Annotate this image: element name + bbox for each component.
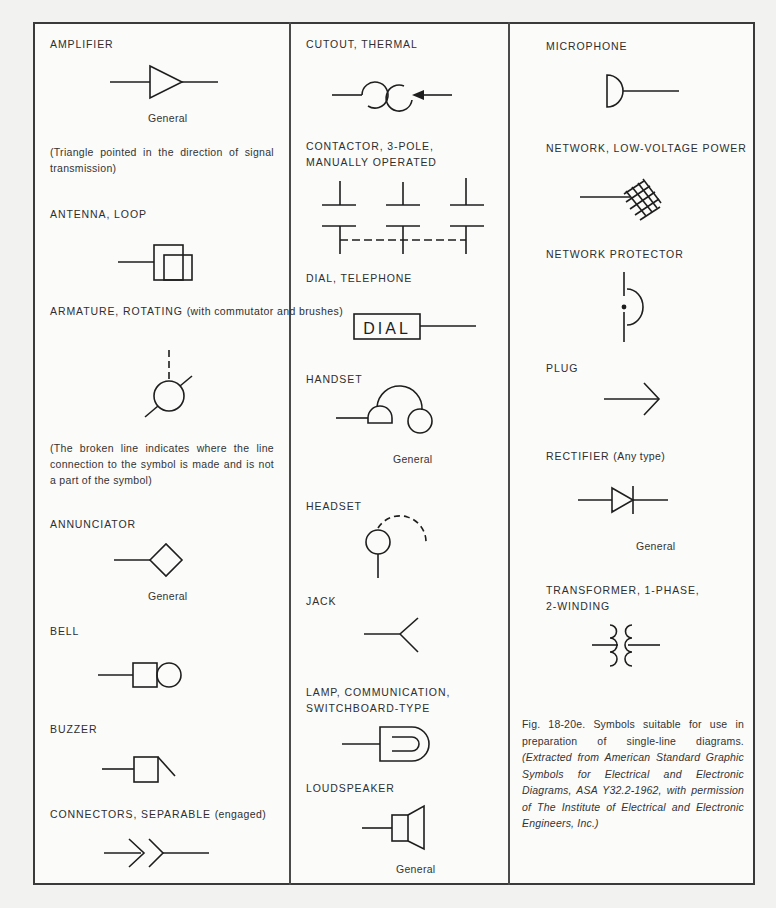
microphone-symbol-icon	[605, 74, 681, 110]
label-handset: HANDSET	[306, 373, 362, 385]
handset-symbol-icon	[336, 394, 436, 438]
label-bell: BELL	[50, 625, 79, 637]
label-antenna-loop: ANTENNA, LOOP	[50, 208, 147, 220]
lamp-communication-symbol-icon	[342, 726, 442, 766]
label-network-low-voltage-power: NETWORK, LOW-VOLTAGE POWER	[546, 142, 747, 154]
label-loudspeaker: LOUDSPEAKER	[306, 782, 395, 794]
column-divider-1	[289, 22, 291, 885]
sublabel-amplifier: General	[148, 112, 187, 124]
sublabel-annunciator: General	[148, 590, 187, 602]
label-buzzer: BUZZER	[50, 723, 97, 735]
label-contactor-3-pole: CONTACTOR, 3-POLE, MANUALLY OPERATED	[306, 138, 437, 170]
contactor-3-pole-symbol-icon	[318, 178, 488, 258]
label-connectors-separable: CONNECTORS, SEPARABLE (engaged)	[50, 808, 266, 820]
label-cutout-thermal: CUTOUT, THERMAL	[306, 38, 418, 50]
buzzer-symbol-icon	[102, 754, 182, 786]
label-plug: PLUG	[546, 362, 578, 374]
loudspeaker-symbol-icon	[362, 805, 442, 851]
transformer-1-phase-symbol-icon	[592, 624, 672, 672]
label-network-protector: NETWORK PROTECTOR	[546, 248, 684, 260]
cutout-thermal-symbol-icon	[332, 78, 456, 112]
label-dial-telephone: DIAL, TELEPHONE	[306, 272, 412, 284]
column-divider-2	[508, 22, 510, 885]
bell-symbol-icon	[98, 660, 188, 692]
label-armature-rotating: ARMATURE, ROTATING (with commutator and …	[50, 305, 343, 317]
plug-symbol-icon	[604, 382, 664, 418]
dial-telephone-symbol-icon: DIAL	[354, 312, 480, 342]
label-jack: JACK	[306, 595, 336, 607]
rectifier-symbol-icon	[578, 486, 672, 516]
jack-symbol-icon	[364, 618, 424, 658]
connectors-separable-symbol-icon	[104, 836, 214, 870]
label-lamp-communication: LAMP, COMMUNICATION, SWITCHBOARD-TYPE	[306, 684, 450, 716]
label-amplifier: AMPLIFIER	[50, 38, 114, 50]
annunciator-symbol-icon	[114, 542, 194, 582]
armature-rotating-symbol-icon	[140, 348, 200, 428]
sublabel-rectifier: General	[636, 540, 675, 552]
label-transformer: TRANSFORMER, 1-PHASE, 2-WINDING	[546, 582, 700, 614]
note-armature-rotating: (The broken line indicates where the lin…	[50, 440, 274, 488]
sublabel-handset: General	[393, 453, 432, 465]
headset-symbol-icon	[364, 512, 436, 584]
sublabel-loudspeaker: General	[396, 863, 435, 875]
amplifier-symbol-icon	[110, 64, 220, 104]
label-rectifier: RECTIFIER (Any type)	[546, 450, 665, 462]
figure-caption: Fig. 18-20e. Symbols suitable for use in…	[522, 716, 744, 832]
network-protector-symbol-icon	[618, 272, 658, 346]
label-headset: HEADSET	[306, 500, 362, 512]
note-amplifier: (Triangle pointed in the direction of si…	[50, 144, 274, 176]
svg-text:DIAL: DIAL	[363, 320, 411, 337]
antenna-loop-symbol-icon	[118, 242, 198, 284]
label-annunciator: ANNUNCIATOR	[50, 518, 136, 530]
network-low-voltage-power-symbol-icon	[580, 178, 672, 222]
label-microphone: MICROPHONE	[546, 40, 627, 52]
